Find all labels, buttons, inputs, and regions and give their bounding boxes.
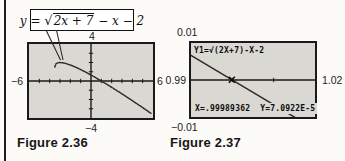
- fig237-caption: Figure 2.37: [170, 135, 241, 150]
- fig237-function-expression: Y1=√(2X+7)-X-2: [194, 46, 264, 55]
- fig236-caption: Figure 2.36: [17, 135, 88, 150]
- equation-text: y = √2x + 7 − x − 2: [20, 13, 144, 28]
- trace-y-value: Y=7.0922E-5: [260, 104, 315, 113]
- fig237-calculator-screen: Y1=√(2X+7)-X-2 X=.99989362Y=7.0922E-5: [189, 41, 317, 119]
- fig236-graph: [29, 44, 153, 118]
- fig237-xmin-label: 0.99: [163, 74, 186, 86]
- fig236-calculator-screen: [27, 42, 155, 120]
- fig237-xmax-label: 1.02: [322, 74, 342, 86]
- fig237-ymin-label: −0.01: [171, 121, 198, 133]
- function-curve: [55, 63, 151, 114]
- fig236-ymax-label: 4: [84, 30, 100, 42]
- textbook-figure-pair: y = √2x + 7 − x − 2 4 −6 6 −4 Figure 2.3…: [0, 0, 345, 161]
- fig237-trace-readout: X=.99989362Y=7.0922E-5: [193, 103, 317, 114]
- fig236-ymin-label: −4: [79, 122, 103, 134]
- trace-x-value: X=.99989362: [195, 104, 250, 113]
- equation-callout-box: y = √2x + 7 − x − 2: [30, 9, 134, 31]
- equation-tail: − x − 2: [94, 14, 144, 28]
- sqrt-symbol: √: [44, 13, 52, 28]
- fig236-xmax-label: 6: [157, 75, 163, 87]
- equation-lhs: y =: [20, 14, 44, 28]
- fig237-ymax-label: 0.01: [177, 26, 197, 38]
- equation-radicand: 2x + 7: [53, 13, 95, 28]
- fig236-xmin-label: −6: [6, 75, 23, 87]
